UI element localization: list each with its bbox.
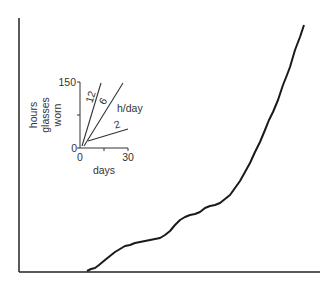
inset-ylabel-line-2: glasses [39, 97, 51, 133]
inset-ylabel-line-3: worn [51, 103, 63, 127]
chart-canvas: 150 0 0 30 days hours glasses worn 12 6 … [0, 0, 333, 291]
inset-ylabel-line-1: hours [27, 102, 39, 128]
inset-xtick-right-label: 30 [122, 151, 134, 163]
inset-rate-unit-label: h/day [117, 102, 143, 114]
inset-line-label-6: 6 [96, 95, 109, 106]
inset-xlabel: days [93, 164, 115, 176]
inset-xtick-left-label: 0 [77, 151, 83, 163]
inset-line-label-2: 2 [112, 118, 121, 131]
inset-ytick-top-label: 150 [58, 76, 76, 88]
